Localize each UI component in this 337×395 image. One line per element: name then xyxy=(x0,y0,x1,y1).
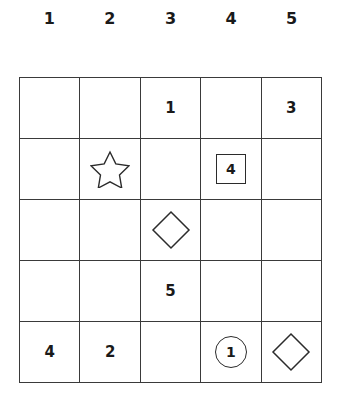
grid-cell-r1-c1[interactable] xyxy=(20,78,80,139)
diamond-icon xyxy=(151,210,191,250)
grid-row: 421 xyxy=(20,322,322,383)
grid-row xyxy=(20,200,322,261)
grid-cell-r4-c2[interactable] xyxy=(80,261,140,322)
grid-cell-r3-c3[interactable] xyxy=(141,200,201,261)
star-icon xyxy=(90,150,130,188)
cell-number: 4 xyxy=(44,345,54,360)
column-header-1: 1 xyxy=(19,6,80,32)
grid-cell-r1-c5[interactable]: 3 xyxy=(262,78,322,139)
grid-cell-r2-c3[interactable] xyxy=(141,139,201,200)
cell-number: 4 xyxy=(226,161,236,177)
grid-cell-r5-c2[interactable]: 2 xyxy=(80,322,140,383)
grid-row: 4 xyxy=(20,139,322,200)
grid-cell-r2-c2[interactable] xyxy=(80,139,140,200)
grid-cell-r4-c5[interactable] xyxy=(262,261,322,322)
boxed-number-marker: 4 xyxy=(216,154,246,184)
grid-cell-r1-c2[interactable] xyxy=(80,78,140,139)
grid-cell-r5-c1[interactable]: 4 xyxy=(20,322,80,383)
cell-number: 1 xyxy=(226,344,236,360)
grid-row: 5 xyxy=(20,261,322,322)
grid-cell-r5-c5[interactable] xyxy=(262,322,322,383)
grid-cell-r2-c5[interactable] xyxy=(262,139,322,200)
grid-cell-r3-c4[interactable] xyxy=(201,200,261,261)
circled-number-marker: 1 xyxy=(215,336,247,368)
puzzle-grid: 1345421 xyxy=(19,77,322,383)
diamond-icon xyxy=(271,332,311,372)
grid-cell-r2-c4[interactable]: 4 xyxy=(201,139,261,200)
grid-row: 13 xyxy=(20,78,322,139)
grid-cell-r4-c4[interactable] xyxy=(201,261,261,322)
column-header-row: 12345 xyxy=(19,6,322,32)
cell-number: 1 xyxy=(165,101,175,116)
grid-cell-r4-c1[interactable] xyxy=(20,261,80,322)
column-header-5: 5 xyxy=(261,6,322,32)
cell-number: 3 xyxy=(286,101,296,116)
grid-cell-r1-c4[interactable] xyxy=(201,78,261,139)
grid-cell-r5-c3[interactable] xyxy=(141,322,201,383)
grid-cell-r3-c1[interactable] xyxy=(20,200,80,261)
cell-number: 2 xyxy=(105,345,115,360)
grid-cell-r3-c2[interactable] xyxy=(80,200,140,261)
grid-cell-r3-c5[interactable] xyxy=(262,200,322,261)
column-header-2: 2 xyxy=(80,6,141,32)
grid-cell-r1-c3[interactable]: 1 xyxy=(141,78,201,139)
grid-cell-r2-c1[interactable] xyxy=(20,139,80,200)
grid-cell-r5-c4[interactable]: 1 xyxy=(201,322,261,383)
column-header-3: 3 xyxy=(140,6,201,32)
grid-cell-r4-c3[interactable]: 5 xyxy=(141,261,201,322)
cell-number: 5 xyxy=(165,284,175,299)
column-header-4: 4 xyxy=(201,6,262,32)
